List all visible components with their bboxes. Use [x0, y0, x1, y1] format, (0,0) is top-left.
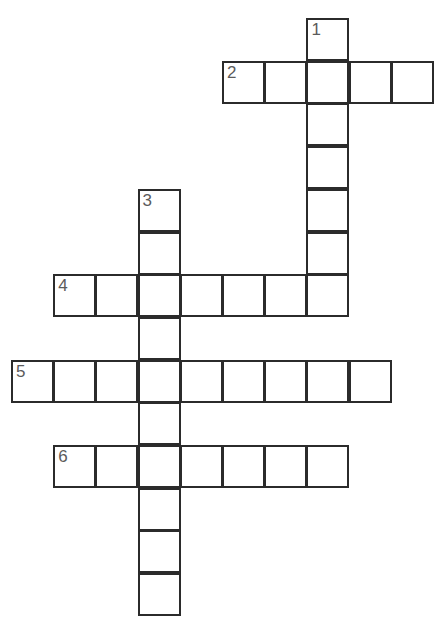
crossword-cell[interactable]	[306, 103, 349, 146]
crossword-cell[interactable]	[138, 445, 181, 488]
crossword-cell[interactable]	[138, 488, 181, 531]
crossword-cell[interactable]	[306, 445, 349, 488]
crossword-cell[interactable]	[180, 274, 223, 317]
crossword-cell[interactable]	[180, 360, 223, 403]
crossword-grid: 123456	[0, 0, 439, 634]
crossword-cell[interactable]	[264, 274, 307, 317]
crossword-cell[interactable]	[306, 232, 349, 275]
crossword-cell[interactable]	[306, 146, 349, 189]
crossword-cell[interactable]: 2	[222, 61, 265, 104]
clue-number-6: 6	[58, 447, 67, 467]
clue-number-1: 1	[311, 20, 320, 40]
crossword-cell[interactable]	[391, 61, 434, 104]
crossword-cell[interactable]	[138, 274, 181, 317]
clue-number-5: 5	[16, 362, 25, 382]
crossword-cell[interactable]	[306, 61, 349, 104]
crossword-cell[interactable]	[138, 360, 181, 403]
crossword-cell[interactable]	[306, 274, 349, 317]
crossword-cell[interactable]	[306, 360, 349, 403]
crossword-cell[interactable]	[138, 232, 181, 275]
crossword-cell[interactable]	[222, 274, 265, 317]
crossword-cell[interactable]	[264, 360, 307, 403]
crossword-cell[interactable]	[222, 445, 265, 488]
crossword-cell[interactable]: 1	[306, 18, 349, 61]
crossword-cell[interactable]: 4	[53, 274, 96, 317]
crossword-cell[interactable]	[95, 360, 138, 403]
crossword-cell[interactable]	[349, 61, 392, 104]
crossword-cell[interactable]	[306, 189, 349, 232]
crossword-cell[interactable]	[95, 445, 138, 488]
crossword-cell[interactable]	[264, 61, 307, 104]
clue-number-2: 2	[227, 63, 236, 83]
crossword-cell[interactable]	[349, 360, 392, 403]
crossword-cell[interactable]: 5	[11, 360, 54, 403]
crossword-cell[interactable]: 6	[53, 445, 96, 488]
crossword-cell[interactable]	[138, 402, 181, 445]
crossword-cell[interactable]	[53, 360, 96, 403]
crossword-cell[interactable]	[222, 360, 265, 403]
crossword-cell[interactable]	[138, 317, 181, 360]
clue-number-4: 4	[58, 276, 67, 296]
crossword-cell[interactable]	[138, 573, 181, 616]
crossword-cell[interactable]	[95, 274, 138, 317]
crossword-cell[interactable]	[264, 445, 307, 488]
crossword-puzzle-page: 123456	[0, 0, 439, 634]
crossword-cell[interactable]	[138, 530, 181, 573]
crossword-cell[interactable]: 3	[138, 189, 181, 232]
crossword-cell[interactable]	[180, 445, 223, 488]
clue-number-3: 3	[143, 191, 152, 211]
